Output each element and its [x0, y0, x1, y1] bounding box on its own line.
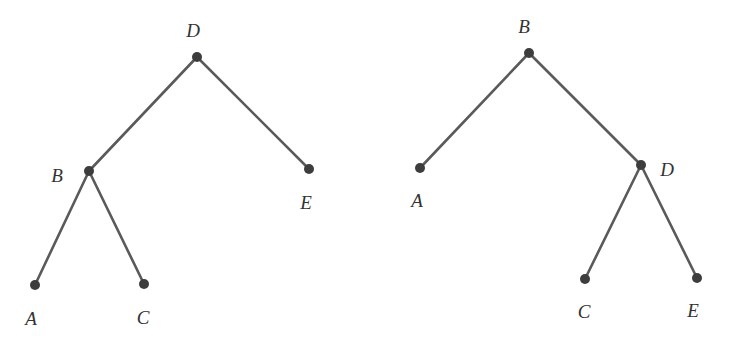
- node-a: [30, 280, 40, 290]
- node-label-b: B: [51, 165, 63, 186]
- node-d: [192, 52, 202, 62]
- node-label-c: C: [137, 307, 150, 328]
- right-tree: BADCE: [409, 16, 702, 322]
- edge-b-d: [529, 53, 641, 165]
- node-label-c: C: [578, 301, 591, 322]
- node-label-b: B: [518, 16, 530, 37]
- node-a: [415, 163, 425, 173]
- edge-d-e: [641, 165, 697, 278]
- edge-d-e: [197, 57, 309, 169]
- edge-d-c: [585, 165, 641, 279]
- edge-b-a: [35, 171, 89, 285]
- left-tree: DBEAC: [23, 20, 314, 329]
- node-label-a: A: [23, 308, 37, 329]
- edge-d-b: [89, 57, 197, 171]
- node-label-e: E: [299, 192, 312, 213]
- node-label-a: A: [409, 190, 423, 211]
- node-d: [636, 160, 646, 170]
- node-b: [524, 48, 534, 58]
- node-label-d: D: [185, 20, 200, 41]
- node-label-d: D: [659, 159, 674, 180]
- node-c: [139, 279, 149, 289]
- node-c: [580, 274, 590, 284]
- node-e: [304, 164, 314, 174]
- node-label-e: E: [686, 300, 699, 321]
- node-e: [692, 273, 702, 283]
- edge-b-c: [89, 171, 144, 284]
- edge-b-a: [420, 53, 529, 168]
- binary-tree-rotation-diagram: DBEAC BADCE: [0, 0, 729, 340]
- node-b: [84, 166, 94, 176]
